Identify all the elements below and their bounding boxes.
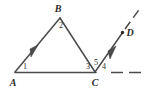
point-label-d: D xyxy=(126,28,133,38)
angle-label-1: 1 xyxy=(23,63,27,71)
segment-d-dashed-up xyxy=(125,7,141,29)
angle-label-4: 4 xyxy=(102,63,106,71)
angle-label-5: 5 xyxy=(94,59,98,67)
parallel-mark-ab-icon xyxy=(30,45,38,57)
geometry-canvas xyxy=(0,0,146,91)
geometry-figure: A B C D 1 2 3 5 4 xyxy=(0,0,146,91)
point-label-c: C xyxy=(92,78,99,88)
angle-label-2: 2 xyxy=(59,22,63,30)
point-marker-d xyxy=(121,31,124,34)
angle-label-3: 3 xyxy=(86,63,90,71)
point-label-b: B xyxy=(55,4,62,14)
point-label-a: A xyxy=(10,78,17,88)
